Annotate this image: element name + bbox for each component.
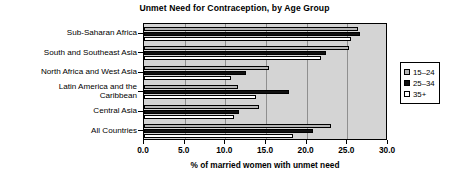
bar xyxy=(144,105,259,109)
bar xyxy=(144,66,269,70)
bar-group xyxy=(144,83,386,103)
legend: 15–2425–3435+ xyxy=(400,62,440,104)
bar xyxy=(144,51,326,55)
bar xyxy=(144,85,238,89)
x-axis-tick xyxy=(184,140,185,144)
x-axis-tick xyxy=(265,140,266,144)
x-axis-tick xyxy=(224,140,225,144)
bar xyxy=(144,56,321,60)
bar xyxy=(144,129,313,133)
y-axis-tick xyxy=(138,52,143,53)
y-axis-tick xyxy=(138,91,143,92)
x-axis-title: % of married women with unmet need xyxy=(143,160,387,170)
y-axis-labels: Sub-Saharan AfricaSouth and Southeast As… xyxy=(0,23,141,140)
plot-area xyxy=(143,23,387,140)
y-axis-tick xyxy=(138,72,143,73)
legend-label: 25–34 xyxy=(413,79,435,88)
bar xyxy=(144,37,351,41)
bar xyxy=(144,110,239,114)
legend-item[interactable]: 15–24 xyxy=(404,67,435,77)
legend-swatch-icon xyxy=(404,69,410,75)
y-axis-label: Sub-Saharan Africa xyxy=(67,28,137,37)
bar-group xyxy=(144,63,386,83)
x-axis-tick-label: 15.0 xyxy=(257,145,273,155)
legend-swatch-icon xyxy=(404,91,410,97)
legend-item[interactable]: 35+ xyxy=(404,89,435,99)
bar xyxy=(144,90,289,94)
y-axis-label: Latin America and the Caribbean xyxy=(59,82,137,101)
bar xyxy=(144,27,358,31)
x-axis-tick-label: 10.0 xyxy=(216,145,232,155)
x-axis-tick-label: 25.0 xyxy=(338,145,354,155)
y-axis-tick xyxy=(138,130,143,131)
bar xyxy=(144,115,234,119)
x-axis-tick xyxy=(143,140,144,144)
legend-label: 35+ xyxy=(413,90,426,99)
legend-item[interactable]: 25–34 xyxy=(404,78,435,88)
x-axis-tick-labels: 0.05.010.015.020.025.030.0 xyxy=(0,145,469,157)
y-axis-label: All Countries xyxy=(91,126,137,135)
bar xyxy=(144,124,331,128)
bar-groups xyxy=(144,24,386,139)
y-axis-tick xyxy=(138,33,143,34)
bar xyxy=(144,95,256,99)
y-axis-tick xyxy=(138,111,143,112)
x-axis-tick-label: 20.0 xyxy=(298,145,314,155)
chart-title: Unmet Need for Contraception, by Age Gro… xyxy=(0,3,469,13)
y-axis-label: South and Southeast Asia xyxy=(44,48,137,57)
legend-label: 15–24 xyxy=(413,68,435,77)
legend-swatch-icon xyxy=(404,80,410,86)
chart-container: Unmet Need for Contraception, by Age Gro… xyxy=(0,0,469,187)
bar-group xyxy=(144,102,386,122)
bar-group xyxy=(144,44,386,64)
bar-group xyxy=(144,122,386,142)
x-axis-tick xyxy=(346,140,347,144)
bar-group xyxy=(144,24,386,44)
x-axis-tick-label: 0.0 xyxy=(137,145,149,155)
x-axis-tick-label: 30.0 xyxy=(379,145,395,155)
bar xyxy=(144,76,231,80)
y-axis-label: Central Asia xyxy=(93,106,137,115)
bar xyxy=(144,134,293,138)
x-axis-tick xyxy=(306,140,307,144)
x-axis-tick xyxy=(387,140,388,144)
bar xyxy=(144,32,360,36)
bar xyxy=(144,71,246,75)
bar xyxy=(144,46,349,50)
y-axis-label: North Africa and West Asia xyxy=(41,67,137,76)
x-axis-tick-label: 5.0 xyxy=(178,145,190,155)
